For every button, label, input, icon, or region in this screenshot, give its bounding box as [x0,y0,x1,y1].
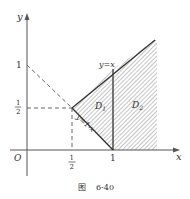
y-axis-label: y [16,11,23,22]
figure-caption-prefix: 图 [78,183,86,192]
x-tick-half-num: 1 [70,154,74,162]
label-y-eq-x: y=x [98,60,115,69]
figure-caption-number: 6-40 [96,183,114,192]
x-tick-half-den: 2 [70,163,74,171]
y-tick-half-den: 2 [16,108,20,116]
x-tick-1: 1 [110,153,116,163]
y-tick-1: 1 [16,60,22,70]
y-tick-half-num: 1 [16,99,20,107]
dashed-line-to-y1 [27,65,72,108]
y-axis-arrow-icon [25,13,30,20]
x-axis-label: x [176,151,182,162]
region-d1 [72,69,113,150]
figure-6-40: y x O 1 1 2 1 2 1 y=x y=1-x D1 D2 图 6-40 [0,0,190,199]
origin-label: O [14,153,22,163]
